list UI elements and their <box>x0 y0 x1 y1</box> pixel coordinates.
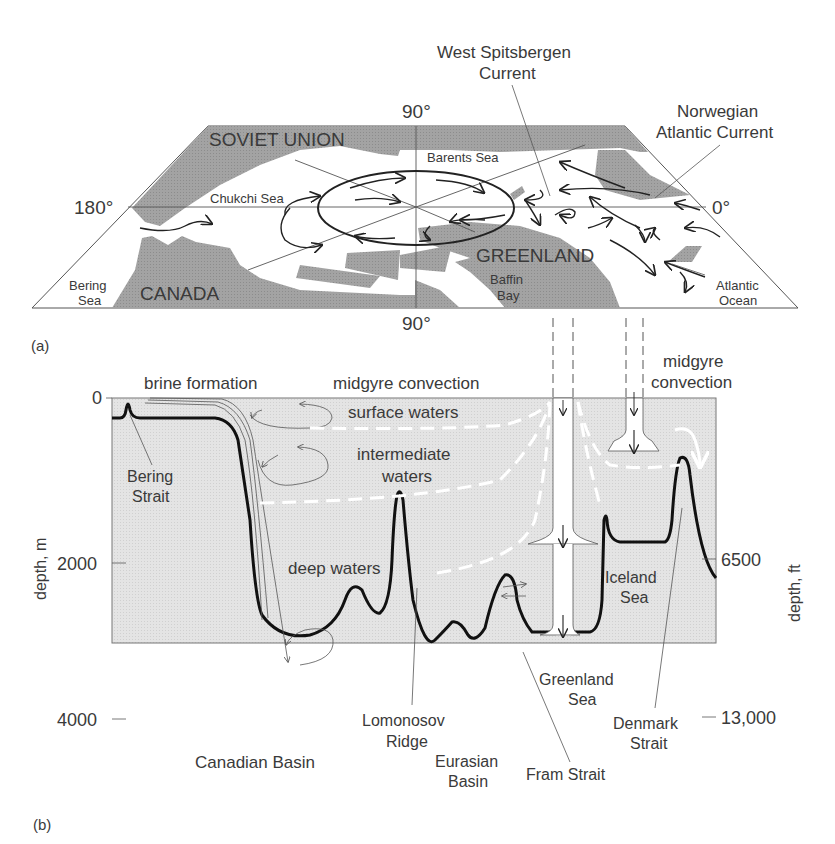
label-intermediate-waters-1: intermediate <box>357 445 451 464</box>
label-midgyre-convection-2b: convection <box>651 373 732 392</box>
convection-column-1 <box>553 318 573 400</box>
label-midgyre-convection-2a: midgyre <box>663 352 723 371</box>
label-canada: CANADA <box>140 283 220 304</box>
axis-tick-2000: 2000 <box>57 554 97 574</box>
label-chukchi-sea: Chukchi Sea <box>210 191 284 206</box>
label-eurasian-basin-1: Eurasian <box>435 753 498 770</box>
label-lon-right: 0° <box>712 197 730 218</box>
panel-b-section: 0 2000 4000 depth, m 6500 13,000 depth, … <box>32 318 803 833</box>
axis-tick-6500: 6500 <box>721 550 761 570</box>
label-west-spitsbergen-2: Current <box>479 64 536 83</box>
label-canadian-basin: Canadian Basin <box>195 753 315 772</box>
label-brine-formation: brine formation <box>144 374 257 393</box>
label-fram-strait: Fram Strait <box>526 766 606 783</box>
label-deep-waters: deep waters <box>288 559 381 578</box>
label-bering-strait-2: Strait <box>132 488 170 505</box>
label-lon-bottom: 90° <box>402 313 431 334</box>
label-atlantic-ocean-1: Atlantic <box>716 278 759 293</box>
label-greenland: GREENLAND <box>476 245 594 266</box>
label-midgyre-convection-1: midgyre convection <box>333 374 479 393</box>
axis-tick-13000: 13,000 <box>721 708 776 728</box>
axis-tick-0: 0 <box>92 388 102 408</box>
label-denmark-strait-2: Strait <box>630 735 668 752</box>
panel-a-label: (a) <box>31 337 49 354</box>
panel-a-map: 90° 90° 180° 0° SOVIET UNION CANADA GREE… <box>31 43 798 354</box>
arctic-circulation-figure: 90° 90° 180° 0° SOVIET UNION CANADA GREE… <box>0 0 835 844</box>
label-eurasian-basin-2: Basin <box>448 773 488 790</box>
label-lon-left: 180° <box>74 197 113 218</box>
label-lon-top: 90° <box>402 101 431 122</box>
label-greenland-sea-1: Greenland <box>539 671 614 688</box>
label-lomonosov-1: Lomonosov <box>362 712 445 729</box>
label-west-spitsbergen-1: West Spitsbergen <box>437 43 571 62</box>
label-intermediate-waters-2: waters <box>381 467 432 486</box>
label-norwegian-1: Norwegian <box>677 102 758 121</box>
label-barents-sea: Barents Sea <box>427 150 499 165</box>
label-baffin-bay-1: Baffin <box>490 272 523 287</box>
label-denmark-strait-1: Denmark <box>613 715 679 732</box>
label-surface-waters: surface waters <box>348 403 459 422</box>
label-greenland-sea-2: Sea <box>568 691 597 708</box>
label-atlantic-ocean-2: Ocean <box>719 293 757 308</box>
label-baffin-bay-2: Bay <box>497 288 520 303</box>
label-bering-sea-1: Bering <box>69 278 107 293</box>
label-soviet-union: SOVIET UNION <box>209 129 345 150</box>
leader-fram-strait <box>523 652 570 762</box>
axis-tick-4000: 4000 <box>57 710 97 730</box>
label-bering-strait-1: Bering <box>127 468 173 485</box>
label-iceland-sea-1: Iceland <box>605 569 657 586</box>
convection-column-2 <box>626 318 643 400</box>
axis-title-left: depth, m <box>32 538 49 600</box>
axis-title-right: depth, ft <box>786 564 803 622</box>
panel-b-label: (b) <box>33 816 51 833</box>
label-bering-sea-2: Sea <box>78 293 102 308</box>
label-iceland-sea-2: Sea <box>620 589 649 606</box>
label-lomonosov-2: Ridge <box>386 733 428 750</box>
label-norwegian-2: Atlantic Current <box>656 123 773 142</box>
